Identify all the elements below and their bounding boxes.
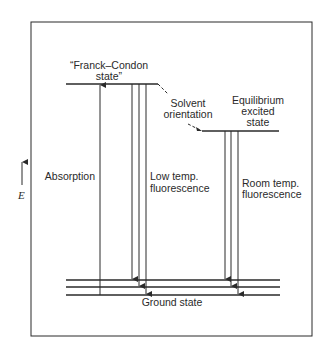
franck-condon-state: “Franck–Condon state” <box>66 59 158 84</box>
solvent-orientation: Solvent orientation <box>158 84 213 131</box>
room-temp-fluorescence: Room temp. fluorescence <box>225 131 302 294</box>
absorption-label: Absorption <box>45 170 95 182</box>
arrowhead-icon <box>196 127 202 131</box>
low-temp-label-2: fluorescence <box>150 182 210 194</box>
equilibrium-excited-state: Equilibrium excited state <box>202 94 284 131</box>
equilibrium-label-3: state <box>247 116 270 128</box>
absorption-transition: Absorption <box>45 85 100 295</box>
energy-diagram: E “Franck–Condon state” Solvent orientat… <box>0 0 331 353</box>
room-temp-label-2: fluorescence <box>242 188 302 200</box>
energy-axis-label: E <box>17 189 25 201</box>
solvent-label-2: orientation <box>163 108 212 120</box>
franck-condon-label-2: state” <box>96 70 123 82</box>
energy-axis: E <box>17 162 25 201</box>
low-temp-label-1: Low temp. <box>150 170 198 182</box>
ground-state: Ground state <box>66 280 280 308</box>
ground-state-label: Ground state <box>142 296 203 308</box>
